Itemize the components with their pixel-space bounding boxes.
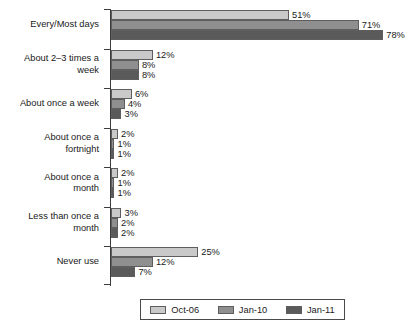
legend-swatch — [150, 306, 166, 314]
bar-value-label: 3% — [124, 109, 137, 119]
bar — [111, 109, 121, 119]
bar-row: 12% — [111, 50, 411, 60]
bar-value-label: 2% — [121, 228, 134, 238]
bar-group: About 2–3 times a week12%8%8% — [0, 50, 411, 80]
bar-row: 12% — [111, 257, 411, 267]
category-label: About 2–3 times a week — [0, 53, 99, 75]
bar — [111, 10, 289, 20]
category-label: About once a fortnight — [0, 132, 99, 154]
bar — [111, 257, 153, 267]
axis-tick — [104, 88, 111, 89]
category-label: About once a month — [0, 172, 99, 194]
legend-item: Oct-06 — [150, 305, 199, 315]
bar-row: 6% — [111, 89, 411, 99]
plot-area: Every/Most days51%71%78%About 2–3 times … — [0, 0, 411, 292]
bar-value-label: 78% — [386, 30, 405, 40]
bar-value-label: 4% — [128, 99, 141, 109]
bar — [111, 129, 118, 139]
bar-value-label: 51% — [292, 10, 311, 20]
bar-value-label: 8% — [142, 60, 155, 70]
bar-value-label: 71% — [362, 20, 381, 30]
bar — [111, 178, 114, 188]
bar-value-label: 2% — [121, 218, 134, 228]
axis-tick — [104, 128, 111, 129]
bar-value-label: 8% — [142, 70, 155, 80]
bar-group: Less than once a month3%2%2% — [0, 208, 411, 238]
category-label: About once a week — [0, 98, 99, 109]
bar — [111, 208, 121, 218]
bar-group: Never use25%12%7% — [0, 247, 411, 277]
bar-row: 51% — [111, 10, 411, 20]
bar-row: 78% — [111, 30, 411, 40]
bar-row: 71% — [111, 20, 411, 30]
category-label: Never use — [0, 256, 99, 267]
bar-row: 1% — [111, 149, 411, 159]
axis-tick — [104, 207, 111, 208]
chart-legend: Oct-06Jan-10Jan-11 — [140, 299, 345, 320]
bar-value-label: 7% — [138, 267, 151, 277]
legend-item: Jan-10 — [218, 305, 267, 315]
bar-row: 3% — [111, 208, 411, 218]
bar-group: About once a month2%1%1% — [0, 168, 411, 198]
bar — [111, 149, 114, 159]
bar — [111, 70, 139, 80]
legend-swatch — [218, 306, 234, 314]
axis-tick — [104, 49, 111, 50]
legend-item: Jan-11 — [286, 305, 335, 315]
bar-value-label: 6% — [135, 89, 148, 99]
bar — [111, 188, 114, 198]
legend-label: Oct-06 — [171, 305, 199, 315]
bar — [111, 50, 153, 60]
bar — [111, 247, 198, 257]
bar — [111, 168, 118, 178]
bar-row: 2% — [111, 129, 411, 139]
bar-row: 1% — [111, 188, 411, 198]
bar-row: 3% — [111, 109, 411, 119]
bar-row: 25% — [111, 247, 411, 257]
bar-value-label: 3% — [124, 208, 137, 218]
bar-value-label: 1% — [117, 188, 130, 198]
bar — [111, 139, 114, 149]
bar — [111, 30, 383, 40]
bar-chart: Every/Most days51%71%78%About 2–3 times … — [0, 0, 411, 330]
bar — [111, 60, 139, 70]
bar-row: 2% — [111, 218, 411, 228]
bar-row: 2% — [111, 168, 411, 178]
bar-row: 2% — [111, 228, 411, 238]
bar-row: 4% — [111, 99, 411, 109]
legend-label: Jan-10 — [239, 305, 267, 315]
bar-value-label: 2% — [121, 168, 134, 178]
axis-tick — [104, 246, 111, 247]
bar-value-label: 12% — [156, 257, 175, 267]
bar — [111, 267, 135, 277]
legend-label: Jan-11 — [307, 305, 335, 315]
category-label: Every/Most days — [0, 19, 99, 30]
bar-group: About once a fortnight2%1%1% — [0, 129, 411, 159]
axis-tick — [104, 9, 111, 10]
bar-row: 8% — [111, 60, 411, 70]
bar-row: 1% — [111, 178, 411, 188]
bar-group: Every/Most days51%71%78% — [0, 10, 411, 40]
bar-value-label: 1% — [117, 178, 130, 188]
bar-value-label: 12% — [156, 50, 175, 60]
bar — [111, 20, 359, 30]
axis-tick — [104, 284, 111, 285]
bar — [111, 228, 118, 238]
axis-tick — [104, 167, 111, 168]
bar-value-label: 1% — [117, 149, 130, 159]
bar — [111, 99, 125, 109]
bar — [111, 218, 118, 228]
bar-value-label: 1% — [117, 139, 130, 149]
bar-group: About once a week6%4%3% — [0, 89, 411, 119]
bar-row: 7% — [111, 267, 411, 277]
bar-value-label: 2% — [121, 129, 134, 139]
bar-row: 1% — [111, 139, 411, 149]
bar-row: 8% — [111, 70, 411, 80]
legend-swatch — [286, 306, 302, 314]
bar-value-label: 25% — [201, 247, 220, 257]
bar — [111, 89, 132, 99]
category-label: Less than once a month — [0, 211, 99, 233]
